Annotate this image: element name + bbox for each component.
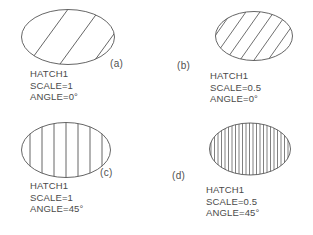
- panel-c: (c) HATCH1 SCALE=1 ANGLE=45°: [14, 118, 164, 233]
- ellipse-d-svg: [208, 121, 292, 177]
- panel-a-angle: ANGLE=0°: [30, 91, 78, 103]
- hatch-pattern-figure: (a) HATCH1 SCALE=1 ANGLE=0°: [0, 0, 313, 235]
- panel-c-scale: SCALE=1: [30, 192, 83, 204]
- panel-d-pattern-name: HATCH1: [206, 184, 259, 196]
- panel-a-letter: (a): [110, 58, 123, 69]
- panel-b-letter: (b): [177, 60, 190, 71]
- panel-d-letter: (d): [172, 170, 185, 181]
- panel-c-pattern-name: HATCH1: [30, 180, 83, 192]
- panel-d-scale: SCALE=0.5: [206, 196, 259, 208]
- ellipse-a-outline: [22, 10, 115, 65]
- hatch-lines-b: [214, 10, 294, 62]
- panel-a-pattern-name: HATCH1: [30, 68, 78, 80]
- ellipse-c-svg: [20, 121, 112, 179]
- ellipse-a-svg: [20, 8, 116, 66]
- panel-d: (d) HATCH1 SCALE=0.5 ANGLE=45°: [160, 118, 313, 233]
- panel-b: (b) HATCH1 SCALE=0.5 ANGLE=0°: [160, 4, 313, 114]
- panel-a-spec: HATCH1 SCALE=1 ANGLE=0°: [30, 68, 78, 103]
- hatch-lines-c: [30, 121, 102, 179]
- panel-b-scale: SCALE=0.5: [210, 82, 261, 94]
- panel-a-scale: SCALE=1: [30, 80, 78, 92]
- panel-b-spec: HATCH1 SCALE=0.5 ANGLE=0°: [210, 70, 261, 105]
- panel-c-spec: HATCH1 SCALE=1 ANGLE=45°: [30, 180, 83, 215]
- panel-c-angle: ANGLE=45°: [30, 203, 83, 215]
- panel-b-angle: ANGLE=0°: [210, 93, 261, 105]
- hatch-lines-a: [20, 8, 116, 66]
- ellipse-a: [20, 8, 116, 66]
- ellipse-b-outline: [216, 12, 293, 61]
- panel-c-letter: (c): [100, 167, 113, 178]
- ellipse-b-svg: [214, 10, 294, 62]
- panel-b-pattern-name: HATCH1: [210, 70, 261, 82]
- ellipse-c: [20, 121, 112, 179]
- panel-d-angle: ANGLE=45°: [206, 207, 259, 219]
- ellipse-d: [208, 121, 292, 177]
- panel-d-spec: HATCH1 SCALE=0.5 ANGLE=45°: [206, 184, 259, 219]
- ellipse-b: [214, 10, 294, 62]
- panel-a: (a) HATCH1 SCALE=1 ANGLE=0°: [14, 4, 164, 114]
